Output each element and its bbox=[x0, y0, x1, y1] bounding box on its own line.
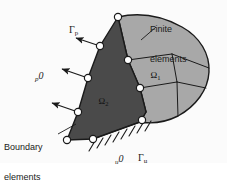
omega-1-subscript: 1 bbox=[157, 74, 160, 81]
callout-boundary-elements-line1: Boundary bbox=[4, 143, 43, 153]
node-left-mid bbox=[84, 74, 91, 81]
label-omega-1: Ω1 bbox=[146, 60, 160, 81]
label-omega-2: Ω2 bbox=[94, 86, 108, 107]
callout-finite-elements-line1: Finite bbox=[150, 25, 187, 35]
traction-symbol: 0 bbox=[39, 70, 44, 81]
displacement-symbol: 0 bbox=[119, 153, 124, 163]
node-left-lower bbox=[74, 108, 81, 115]
label-gamma-p: Γp bbox=[64, 14, 78, 37]
node-bottom-mid bbox=[89, 135, 96, 142]
node-interface-mid bbox=[136, 84, 143, 91]
label-prescribed-displacement: u0 bbox=[110, 143, 124, 163]
node-interface-lower bbox=[138, 116, 145, 123]
node-bottom-left bbox=[63, 136, 70, 143]
gamma-p-subscript: p bbox=[75, 29, 79, 37]
callout-boundary-elements: Boundary elements bbox=[4, 124, 43, 163]
label-gamma-u: Γu bbox=[133, 142, 147, 163]
node-apex bbox=[114, 13, 121, 20]
node-left-upper bbox=[96, 42, 103, 49]
gamma-u-subscript: u bbox=[144, 157, 148, 163]
label-prescribed-traction: p0 bbox=[30, 60, 44, 83]
omega-2-subscript: 2 bbox=[105, 100, 108, 107]
node-interface-upper bbox=[124, 56, 131, 63]
